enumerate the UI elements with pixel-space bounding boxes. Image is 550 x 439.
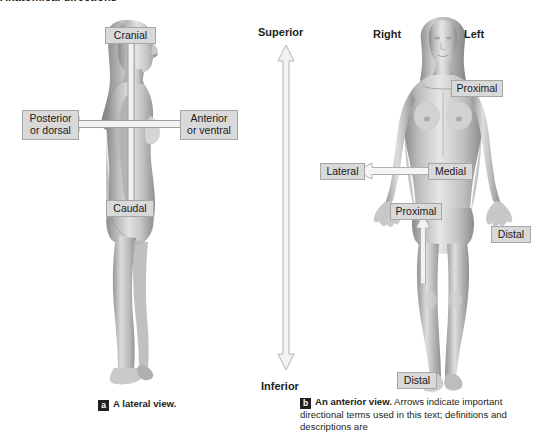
caption-b-title: An anterior view. [315,396,392,407]
label-posterior-line2: or dorsal [30,124,71,136]
label-left: Left [464,28,484,40]
label-posterior-line1: Posterior [29,112,71,124]
label-distal-hand: Distal [491,226,531,243]
label-distal-foot: Distal [397,372,437,389]
label-proximal-arm: Proximal [451,80,503,97]
label-superior: Superior [258,26,303,38]
superior-inferior-arrow [275,45,297,370]
caption-a-badge: a [98,400,109,411]
label-caudal: Caudal [106,200,154,217]
caption-a: aA lateral view. [98,398,268,411]
caption-b-badge: b [300,398,311,409]
label-posterior-dorsal: Posterior or dorsal [22,110,79,140]
caption-a-title: A lateral view. [113,398,176,409]
label-medial: Medial [428,163,473,180]
label-inferior: Inferior [261,380,299,392]
label-right: Right [373,28,401,40]
label-anterior-line1: Anterior [191,112,228,124]
caption-b: bAn anterior view. Arrows indicate impor… [300,396,548,432]
label-lateral: Lateral [320,163,365,180]
label-proximal-leg: Proximal [390,203,442,220]
label-anterior-line2: or ventral [187,124,231,136]
anterior-body-illustration [355,16,530,394]
page-heading-truncated: Anatomical directions [0,0,117,3]
label-cranial: Cranial [105,27,156,44]
anatomical-directions-figure: Anatomical directions [0,0,550,439]
label-anterior-ventral: Anterior or ventral [180,110,238,140]
